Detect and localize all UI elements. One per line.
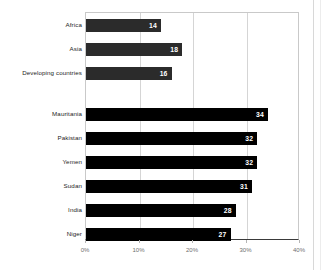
bar-value-mauritania: 34 xyxy=(256,111,264,118)
tick-label-0: 0% xyxy=(81,247,90,253)
plot-area: 14 18 16 34 32 32 xyxy=(85,12,299,240)
category-label-developing-countries: Developing countries xyxy=(0,70,82,76)
category-label-sudan: Sudan xyxy=(0,183,82,189)
bar-mauritania: 34 xyxy=(86,108,268,121)
bar-india: 28 xyxy=(86,204,236,217)
tick-mark-40 xyxy=(299,240,300,243)
bar-value-developing-countries: 16 xyxy=(160,70,168,77)
bar-value-sudan: 31 xyxy=(240,183,248,190)
category-label-india: India xyxy=(0,207,82,213)
bar-value-pakistan: 32 xyxy=(245,135,253,142)
bar-sudan: 31 xyxy=(86,180,252,193)
bar-value-asia: 18 xyxy=(170,46,178,53)
tick-mark-30 xyxy=(246,240,247,243)
category-label-mauritania: Mauritania xyxy=(0,111,82,117)
bar-yemen: 32 xyxy=(86,156,257,169)
bar-africa: 14 xyxy=(86,19,161,32)
bar-pakistan: 32 xyxy=(86,132,257,145)
bar-value-africa: 14 xyxy=(149,22,157,29)
bar-chart: Africa Asia Developing countries Maurita… xyxy=(0,0,321,270)
tick-label-30: 30% xyxy=(239,247,251,253)
tick-mark-20 xyxy=(192,240,193,243)
category-label-niger: Niger xyxy=(0,231,82,237)
bar-value-yemen: 32 xyxy=(245,159,253,166)
category-label-pakistan: Pakistan xyxy=(0,135,82,141)
tick-label-20: 20% xyxy=(186,247,198,253)
gridline-30 xyxy=(247,13,248,239)
tick-mark-10 xyxy=(139,240,140,243)
bar-value-india: 28 xyxy=(224,207,232,214)
bar-value-niger: 27 xyxy=(219,231,227,238)
bar-developing-countries: 16 xyxy=(86,67,172,80)
category-label-africa: Africa xyxy=(0,22,82,28)
category-label-yemen: Yemen xyxy=(0,159,82,165)
tick-mark-0 xyxy=(85,240,86,243)
category-label-asia: Asia xyxy=(0,46,82,52)
bar-niger: 27 xyxy=(86,228,231,241)
tick-label-10: 10% xyxy=(132,247,144,253)
tick-label-40: 40% xyxy=(293,247,305,253)
bar-asia: 18 xyxy=(86,43,182,56)
